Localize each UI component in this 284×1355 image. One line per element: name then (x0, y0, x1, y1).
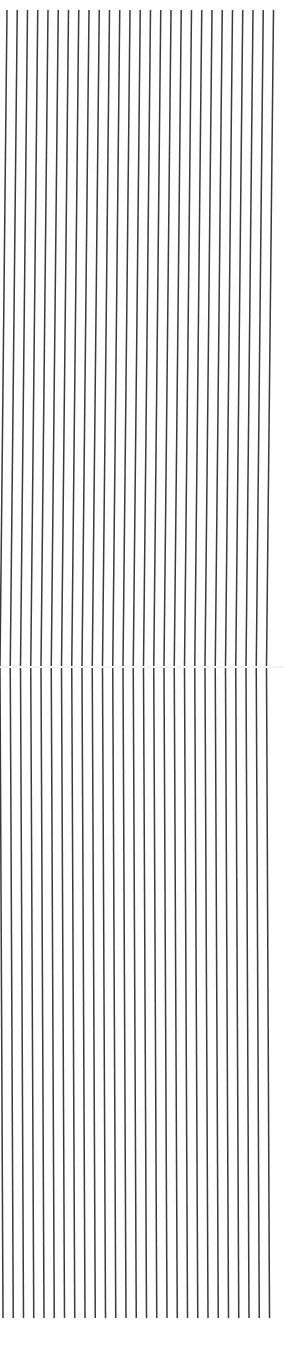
stripe-line (10, 668, 13, 1318)
stripe-line (113, 10, 120, 666)
stripe-line (164, 10, 171, 666)
stripe-line (103, 10, 110, 666)
stripe-line (195, 10, 202, 666)
stripe-line (236, 668, 239, 1318)
stripe-line (92, 10, 99, 666)
stripe-line (92, 668, 95, 1318)
stripe-line (174, 10, 181, 666)
stripe-line (205, 10, 212, 666)
stripe-line (0, 668, 3, 1318)
stripe-line (123, 668, 126, 1318)
stripe-line (31, 668, 34, 1318)
stripe-line (236, 10, 243, 666)
stripe-pattern (0, 0, 284, 1355)
stripe-line (185, 10, 192, 666)
stripe-line (267, 10, 274, 666)
stripe-line (215, 10, 222, 666)
stripe-line (226, 668, 229, 1318)
stripe-line (62, 668, 65, 1318)
stripe-line (113, 668, 116, 1318)
stripe-line (21, 668, 24, 1318)
stripe-line (256, 668, 259, 1318)
horizontal-seam (0, 666, 284, 668)
stripe-line (123, 10, 130, 666)
stripe-line (205, 668, 208, 1318)
stripe-line (51, 668, 54, 1318)
stripe-line (103, 668, 106, 1318)
stripe-line (267, 668, 270, 1318)
stripe-line (21, 10, 28, 666)
stripe-line (62, 10, 69, 666)
stripe-line (41, 668, 44, 1318)
stripe-line (72, 668, 75, 1318)
stripe-line (215, 668, 218, 1318)
stripe-line (226, 10, 233, 666)
stripe-line (185, 668, 188, 1318)
vertical-lines-group (0, 10, 274, 1318)
stripe-line (82, 10, 89, 666)
stripe-line (246, 668, 249, 1318)
stripe-line (10, 10, 17, 666)
stripe-line (51, 10, 58, 666)
stripe-line (144, 10, 151, 666)
stripe-line (164, 668, 167, 1318)
stripe-line (0, 10, 7, 666)
stripe-line (195, 668, 198, 1318)
stripe-line (154, 668, 157, 1318)
stripe-line (144, 668, 147, 1318)
stripe-line (31, 10, 38, 666)
stripe-line (72, 10, 79, 666)
stripe-line (154, 10, 161, 666)
stripe-line (246, 10, 253, 666)
stripe-line (133, 668, 136, 1318)
stripe-line (133, 10, 140, 666)
stripe-line (256, 10, 263, 666)
stripe-line (174, 668, 177, 1318)
stripe-line (41, 10, 48, 666)
stripe-line (82, 668, 85, 1318)
